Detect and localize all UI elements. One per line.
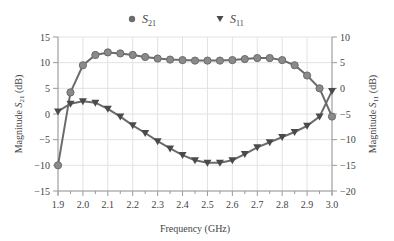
left-y-axis-label: Magnitude S21 (dB) <box>13 75 26 154</box>
data-point-circle <box>67 89 74 96</box>
data-point-circle <box>129 51 136 58</box>
data-point-triangle <box>104 106 112 113</box>
right-y-tick-label: −10 <box>340 134 356 145</box>
data-point-circle <box>79 62 86 69</box>
data-point-circle <box>104 49 111 56</box>
left-y-tick-label: −15 <box>34 186 50 197</box>
right-y-tick-label: 10 <box>340 32 350 43</box>
x-tick-label: 2.7 <box>251 199 264 210</box>
data-point-circle <box>279 57 286 64</box>
data-point-circle <box>154 55 161 62</box>
data-point-circle <box>316 85 323 92</box>
left-y-tick-label: −10 <box>34 160 50 171</box>
x-tick-label: 2.9 <box>301 199 314 210</box>
left-y-tick-label: 15 <box>40 32 50 43</box>
data-point-circle <box>291 62 298 69</box>
data-point-circle <box>117 50 124 57</box>
circle-marker-icon <box>129 16 135 22</box>
data-point-circle <box>179 57 186 64</box>
data-series <box>54 49 336 169</box>
right-y-tick-label: 0 <box>340 83 345 94</box>
x-tick-label: 2.2 <box>126 199 139 210</box>
x-axis-label: Frequency (GHz) <box>160 223 230 235</box>
left-y-tick-label: −5 <box>39 134 50 145</box>
legend-label-s21: S21 <box>142 12 156 28</box>
x-tick-label: 2.0 <box>77 199 90 210</box>
left-y-tick-label: 5 <box>45 83 50 94</box>
data-point-circle <box>266 54 273 61</box>
x-tick-label: 2.6 <box>226 199 239 210</box>
x-tick-label: 2.4 <box>176 199 189 210</box>
right-y-tick-label: −5 <box>340 109 351 120</box>
data-point-circle <box>328 113 335 120</box>
data-point-circle <box>92 51 99 58</box>
right-y-axis-label: Magnitude S11 (dB) <box>367 75 380 153</box>
x-tick-label: 2.8 <box>276 199 289 210</box>
triangle-down-marker-icon <box>217 16 224 22</box>
x-tick-label: 2.1 <box>102 199 115 210</box>
x-tick-label: 1.9 <box>52 199 65 210</box>
legend-item-s11: S11 <box>217 12 244 28</box>
series-line <box>58 52 332 165</box>
data-point-circle <box>166 56 173 63</box>
legend: S21 S11 <box>129 12 244 28</box>
x-tick-label: 2.5 <box>201 199 214 210</box>
s-parameter-chart: 151050−5−10−151050−5−10−15−201.92.02.12.… <box>0 0 394 241</box>
data-point-triangle <box>328 88 336 95</box>
data-point-circle <box>241 55 248 62</box>
x-tick-label: 2.3 <box>151 199 164 210</box>
right-y-tick-label: −15 <box>340 160 356 171</box>
left-y-tick-label: 0 <box>45 109 50 120</box>
data-point-circle <box>216 57 223 64</box>
left-y-tick-label: 10 <box>40 57 50 68</box>
data-point-circle <box>54 162 61 169</box>
data-point-circle <box>303 72 310 79</box>
data-point-circle <box>254 54 261 61</box>
right-y-tick-label: −20 <box>340 186 356 197</box>
series-line <box>58 91 332 163</box>
series-s11 <box>54 88 336 167</box>
data-point-triangle <box>129 122 137 129</box>
x-tick-label: 3.0 <box>326 199 339 210</box>
series-s21 <box>54 49 335 169</box>
data-point-circle <box>191 57 198 64</box>
legend-label-s11: S11 <box>230 12 244 28</box>
data-point-circle <box>142 53 149 60</box>
data-point-circle <box>204 57 211 64</box>
data-point-circle <box>229 57 236 64</box>
right-y-tick-label: 5 <box>340 57 345 68</box>
legend-item-s21: S21 <box>129 12 156 28</box>
